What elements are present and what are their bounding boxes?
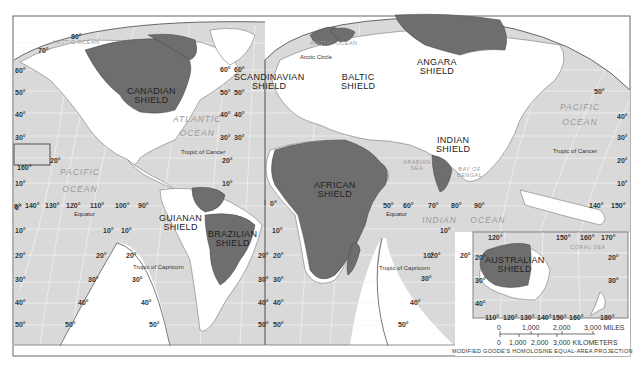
- label-atlantic-ocean: ATLANTICOCEAN: [173, 115, 221, 137]
- deg-lat: 10°: [617, 180, 628, 187]
- deg-lon: 130°: [520, 314, 534, 321]
- scale-km-3000: 3,000 KILOMETERS: [553, 339, 618, 346]
- label-african-shield: AFRICANSHIELD: [314, 181, 356, 199]
- scale-km-2000: 2,000: [531, 339, 549, 346]
- label-arabian-sea: ARABIANSEA: [403, 160, 431, 171]
- label-arctic-circle: Arctic Circle: [300, 54, 332, 60]
- deg-lon: 140°: [537, 314, 551, 321]
- deg-lat: 10°: [272, 227, 283, 234]
- deg-lat: 40°: [475, 300, 486, 307]
- deg-lat: 60°: [220, 66, 231, 73]
- scale-km-0: 0: [497, 339, 501, 346]
- label-angara-shield: ANGARASHIELD: [417, 58, 457, 76]
- deg-lon: 140°: [25, 202, 39, 209]
- deg-lat: 20°: [222, 157, 233, 164]
- label-tropic-cancer-east: Tropic of Cancer: [553, 148, 597, 154]
- label-brazilian-shield: BRAZILIANSHIELD: [208, 230, 257, 248]
- label-tropic-capricorn-west: Tropic of Capricorn: [133, 264, 184, 270]
- deg-lon: 170°: [601, 234, 615, 241]
- deg-lon: 150°: [611, 202, 625, 209]
- deg-lat: 30°: [15, 134, 26, 141]
- deg-lat: 40°: [15, 299, 26, 306]
- label-bay-of-bengal: BAY OFBENGAL: [457, 167, 482, 178]
- deg-lon: 90°: [138, 202, 149, 209]
- deg-lat: 50°: [15, 89, 26, 96]
- deg-lon: 60°: [403, 202, 414, 209]
- scale-miles-3000: 3,000 MILES: [584, 324, 624, 331]
- deg-lat: 40°: [258, 299, 269, 306]
- label-pacific-ocean-west: PACIFICOCEAN: [60, 168, 100, 193]
- scale-miles-2000: 2,000: [553, 324, 571, 331]
- deg-lon: 100°: [115, 202, 129, 209]
- projection-label: MODIFIED GOODE'S HOMOLOSINE EQUAL-AREA P…: [452, 349, 633, 355]
- deg-lon: 130°: [45, 202, 59, 209]
- label-indian-shield: INDIANSHIELD: [436, 136, 470, 154]
- label-baltic-shield: BALTICSHIELD: [341, 73, 375, 91]
- label-australian-shield: AUSTRALIANSHIELD: [485, 256, 545, 274]
- deg-lon: 160°: [17, 164, 31, 171]
- label-indian-ocean: INDIAN OCEAN: [422, 216, 506, 225]
- deg-lon: 80°: [451, 202, 462, 209]
- deg-lat: 20°: [617, 157, 628, 164]
- deg-lon: 120°: [503, 314, 517, 321]
- label-pacific-ocean-east: PACIFICOCEAN: [560, 103, 600, 126]
- deg-lon: 90°: [474, 202, 485, 209]
- deg-lat: 20°: [475, 254, 486, 261]
- deg-lat: 50°: [258, 321, 269, 328]
- deg-lon: 150°: [556, 234, 570, 241]
- label-guianan-shield: GUIANANSHIELD: [159, 214, 202, 232]
- deg-lat: 40°: [617, 113, 628, 120]
- label-arctic-ocean-west: ARCTIC OCEAN: [52, 40, 100, 46]
- deg-lat: 20°: [15, 252, 26, 259]
- deg-lat: 10°: [15, 227, 26, 234]
- label-equator-west: Equator: [74, 211, 95, 217]
- deg-lat: 60°: [15, 67, 26, 74]
- deg-lat: 30°: [617, 134, 628, 141]
- deg-lon: 150°: [552, 314, 566, 321]
- deg-lat: 0°: [270, 200, 277, 207]
- deg-lat: 30°: [475, 277, 486, 284]
- deg-lat: 30°: [258, 276, 269, 283]
- deg-lon: 160°: [580, 234, 594, 241]
- deg-lon: 180°: [600, 314, 614, 321]
- deg-lat: 70°: [38, 47, 49, 54]
- deg-lon: 160°: [569, 314, 583, 321]
- label-canadian-shield: CANADIANSHIELD: [127, 87, 176, 105]
- deg-lat: 20°: [50, 157, 61, 164]
- label-coral-sea: CORAL SEA: [570, 245, 606, 251]
- label-tropic-capricorn-east: Tropic of Capricorn: [379, 265, 430, 271]
- deg-lon: 120°: [488, 234, 502, 241]
- deg-lat: 40°: [220, 111, 231, 118]
- deg-lon: 110°: [90, 202, 104, 209]
- deg-lat: 30°: [15, 276, 26, 283]
- deg-lon: 50°: [383, 202, 394, 209]
- deg-lat: 20°: [258, 252, 269, 259]
- label-equator-east: Equator: [386, 211, 407, 217]
- label-arctic-ocean-east: ARCTIC OCEAN: [310, 41, 358, 47]
- deg-lon: 140°: [589, 202, 603, 209]
- deg-lat: 50°: [594, 88, 605, 95]
- deg-lon: 70°: [428, 202, 439, 209]
- scale-miles-0: 0: [497, 324, 501, 331]
- deg-lat: 40°: [15, 111, 26, 118]
- scale-miles-1000: 1,000: [522, 324, 540, 331]
- deg-lat: 10°: [15, 180, 26, 187]
- deg-lat: 30°: [220, 134, 231, 141]
- deg-lon: 120°: [66, 202, 80, 209]
- deg-lon: 110°: [485, 314, 499, 321]
- label-tropic-cancer-west: Tropic of Cancer: [181, 149, 225, 155]
- scale-km-1000: 1,000: [509, 339, 527, 346]
- deg-lat: 10°: [222, 180, 233, 187]
- deg-lat: 50°: [15, 321, 26, 328]
- deg-lat: 50°: [220, 89, 231, 96]
- australia-inset: [455, 232, 630, 356]
- deg-lat: 80°: [71, 33, 82, 40]
